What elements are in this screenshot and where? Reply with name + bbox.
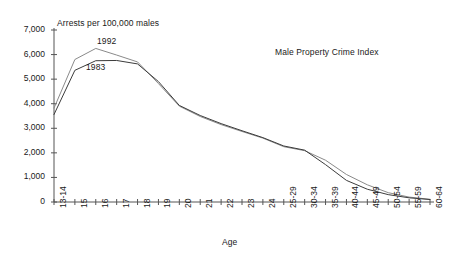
x-tick-label: 19 [162,199,172,208]
y-tick-label: 1,000 [5,171,45,181]
x-tick-label: 18 [142,199,152,208]
x-tick-label: 25-29 [288,186,298,208]
x-tick-label: 23 [246,199,256,208]
x-tick-label: 15 [79,199,89,208]
series-label-1983: 1983 [86,62,105,72]
x-tick-label: 40-44 [350,186,360,208]
y-tick-label: 2,000 [5,147,45,157]
chart-title: Male Property Crime Index [275,47,379,57]
x-tick-label: 20 [183,199,193,208]
x-tick-label: 17 [121,199,131,208]
x-tick-label: 22 [225,199,235,208]
x-tick-label: 55-59 [413,186,423,208]
series-line-1992 [54,48,430,199]
x-tick-label: 60-64 [434,186,444,208]
x-tick-label: 30-34 [309,186,319,208]
x-axis-title: Age [222,237,237,247]
y-tick-label: 7,000 [5,24,45,34]
y-tick-label: 6,000 [5,49,45,59]
y-tick-label: 3,000 [5,122,45,132]
x-tick-label: 21 [204,199,214,208]
y-axis-caption: Arrests per 100,000 males [57,18,159,28]
x-tick-label: 35-39 [330,186,340,208]
chart-figure: 7,0006,0005,0004,0003,0002,0001,0000 13-… [0,0,464,257]
y-tick-label: 0 [5,196,45,206]
x-tick-label: 13-14 [58,186,68,208]
x-tick-label: 16 [100,199,110,208]
y-tick-label: 4,000 [5,98,45,108]
line-chart-plot [0,0,464,257]
chart-series-group [54,48,430,199]
series-label-1992: 1992 [97,36,116,46]
y-tick-label: 5,000 [5,73,45,83]
x-tick-label: 45-49 [371,186,381,208]
series-line-1983 [54,60,430,199]
x-tick-label: 50-54 [392,186,402,208]
x-tick-label: 24 [267,199,277,208]
